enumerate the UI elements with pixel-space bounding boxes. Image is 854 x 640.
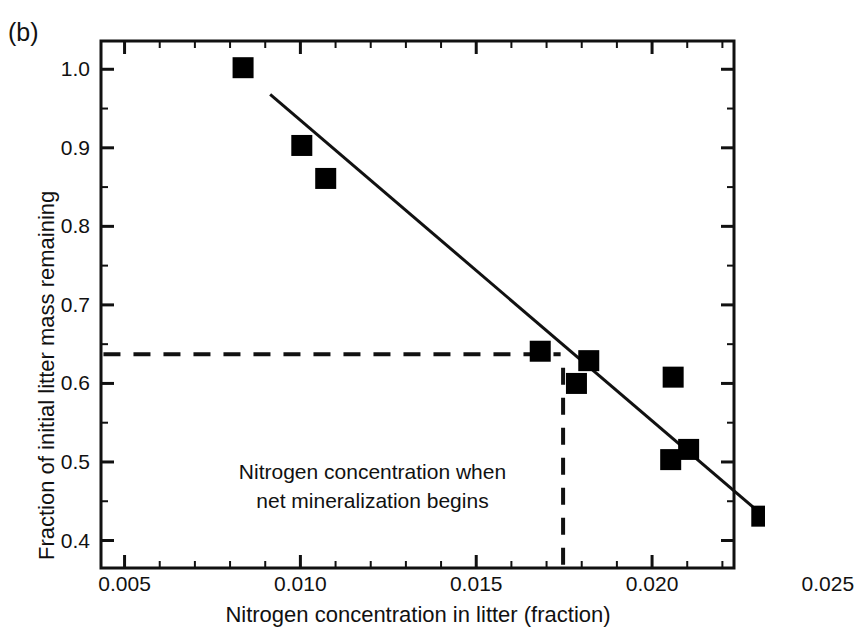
data-point-marker <box>751 506 765 527</box>
data-point-marker <box>566 373 587 394</box>
data-point-marker <box>678 439 699 460</box>
data-point-marker <box>315 168 336 189</box>
data-point-marker <box>530 341 551 362</box>
data-point-marker <box>233 57 254 78</box>
plot-frame <box>101 41 734 568</box>
data-point-marker <box>660 449 681 470</box>
data-point-marker <box>291 135 312 156</box>
data-point-marker <box>663 367 684 388</box>
x-tick-label: 0.025 <box>802 572 854 596</box>
data-point-marker <box>578 350 599 371</box>
